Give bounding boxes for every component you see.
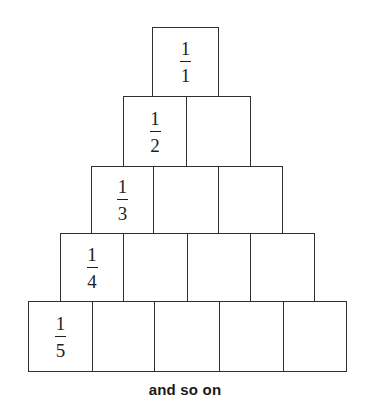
empty-cell [187,233,251,302]
unit-fraction: 12 [124,97,186,166]
empty-cell [123,233,188,302]
fraction-cell: 13 [91,166,154,234]
empty-cell [154,301,220,372]
fraction-cell: 14 [60,233,124,302]
unit-fraction: 14 [61,234,123,301]
fraction-numerator: 1 [118,177,128,199]
fraction-numerator: 1 [181,39,191,61]
fraction-numerator: 1 [56,314,66,336]
empty-cell [218,166,283,234]
unit-fraction: 11 [153,28,218,96]
fraction-denominator: 4 [87,268,97,291]
fraction-pyramid-diagram: 1112131415 [0,0,370,419]
fraction-cell: 12 [123,96,187,167]
fraction-numerator: 1 [87,245,97,267]
fraction-numerator: 1 [150,109,160,131]
empty-cell [283,301,347,372]
fraction-cell: 15 [28,301,93,372]
unit-fraction: 13 [92,167,153,233]
fraction-denominator: 5 [56,337,66,360]
fraction-cell: 11 [152,27,219,97]
fraction-denominator: 1 [181,62,191,85]
caption-and-so-on: and so on [0,381,370,398]
empty-cell [186,96,251,167]
fraction-denominator: 2 [150,132,160,155]
empty-cell [153,166,219,234]
empty-cell [92,301,155,372]
fraction-denominator: 3 [118,200,128,223]
empty-cell [219,301,284,372]
empty-cell [250,233,315,302]
unit-fraction: 15 [29,302,92,371]
